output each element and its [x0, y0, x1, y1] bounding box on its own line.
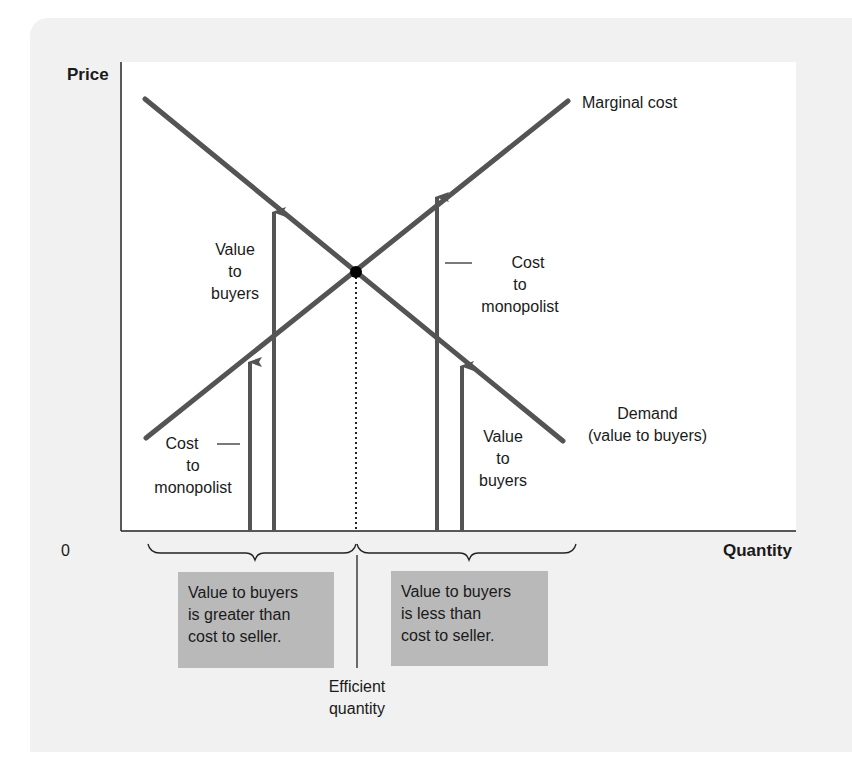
box-line: cost to seller. [188, 626, 324, 648]
y-axis-label: Price [67, 64, 109, 86]
demand-label-line2: (value to buyers) [585, 425, 710, 447]
label-line: Cost [486, 252, 570, 274]
demand-label-line1: Demand [585, 403, 710, 425]
right-explanation-box: Value to buyers is less than cost to sel… [391, 571, 548, 666]
label-line: to [470, 274, 570, 296]
label-line: to [468, 448, 538, 470]
left-explanation-box: Value to buyers is greater than cost to … [178, 572, 334, 668]
label-line: Cost [121, 433, 243, 455]
right-brace [357, 544, 576, 560]
x-axis-label: Quantity [723, 540, 792, 562]
label-line: buyers [468, 470, 538, 492]
label-line: to [143, 455, 243, 477]
label-line: Value [468, 426, 538, 448]
origin-label: 0 [61, 540, 70, 562]
box-line: is greater than [188, 604, 324, 626]
label-line: monopolist [470, 296, 570, 318]
label-line: Efficient [317, 676, 397, 698]
label-line: Value [200, 239, 270, 261]
right-value-to-buyers-label: Value to buyers [468, 426, 538, 492]
box-line: cost to seller. [401, 625, 538, 647]
label-line: buyers [200, 283, 270, 305]
right-cost-to-monopolist-label: Cost to monopolist [470, 252, 570, 318]
label-line: monopolist [143, 477, 243, 499]
equilibrium-point [350, 266, 362, 278]
efficient-quantity-label: Efficient quantity [317, 676, 397, 720]
label-line: to [200, 261, 270, 283]
left-cost-to-monopolist-label: Cost to monopolist [143, 433, 243, 499]
left-value-to-buyers-label: Value to buyers [200, 239, 270, 305]
box-line: Value to buyers [401, 581, 538, 603]
box-line: Value to buyers [188, 582, 324, 604]
demand-label: Demand (value to buyers) [585, 403, 710, 447]
left-brace [148, 544, 356, 560]
label-line: quantity [317, 698, 397, 720]
marginal-cost-label: Marginal cost [582, 92, 677, 114]
box-line: is less than [401, 603, 538, 625]
